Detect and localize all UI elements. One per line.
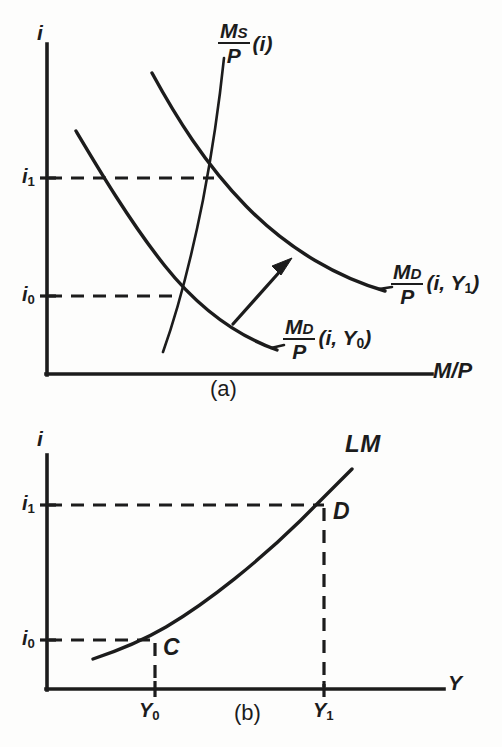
money-demand-curve-y1 [152, 73, 385, 291]
md-y1-denominator: P [391, 283, 423, 307]
money-demand-y0-curve-label: MD P (i, Y0) [283, 316, 371, 363]
panel-b-graphics [40, 455, 444, 697]
point-label-c: C [163, 636, 180, 659]
panel-b-caption: (b) [234, 702, 261, 724]
panel-a-y-axis-label: i [37, 22, 43, 43]
figure-canvas [0, 0, 502, 747]
ms-denominator: P [218, 42, 250, 66]
panel-a-caption: (a) [210, 378, 237, 400]
point-label-d: D [333, 500, 350, 523]
lm-curve-label: LM [345, 432, 381, 456]
md-y1-args: (i, Y1) [426, 272, 479, 296]
panel-b-x-axis-label: Y [448, 672, 462, 693]
panel-a-i0-tick-label: i0 [22, 284, 35, 306]
panel-b-y0-tick-label: Y0 [139, 700, 160, 722]
panel-b-i1-tick-label: i1 [22, 493, 35, 515]
money-supply-curve-label: MS P (i) [218, 20, 272, 67]
md-y1-numerator: MD [391, 261, 423, 283]
ms-args: (i) [253, 33, 273, 54]
panel-a-graphics [40, 44, 432, 375]
panel-b-y-axis-label: i [37, 428, 43, 449]
panel-a-x-axis-label: M/P [433, 360, 472, 382]
ms-numerator: MS [218, 20, 250, 42]
money-supply-curve [163, 58, 224, 352]
md-y0-args: (i, Y0) [318, 327, 371, 351]
lm-curve [93, 469, 352, 659]
shift-arrow-head [272, 258, 292, 275]
md-y0-numerator: MD [283, 316, 315, 338]
panel-b-y1-tick-label: Y1 [313, 700, 334, 722]
economics-figure: i i1 i0 MS P (i) MD P (i, Y1) MD P (i, Y… [0, 0, 502, 747]
panel-b-i0-tick-label: i0 [22, 628, 35, 650]
panel-a-i1-tick-label: i1 [22, 166, 35, 188]
money-demand-curve-y0 [76, 131, 277, 350]
shift-arrow-shaft [233, 268, 283, 324]
md-y0-denominator: P [283, 338, 315, 362]
money-demand-y1-curve-label: MD P (i, Y1) [391, 261, 479, 308]
